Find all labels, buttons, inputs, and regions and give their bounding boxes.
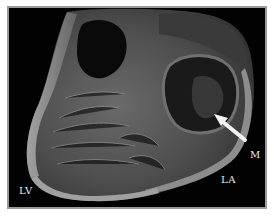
label-m: M (250, 149, 261, 160)
image-frame: LV LA M (7, 6, 267, 209)
label-lv: LV (19, 185, 33, 196)
label-la: LA (221, 174, 236, 185)
specimen-photo: LV LA M (9, 8, 265, 207)
